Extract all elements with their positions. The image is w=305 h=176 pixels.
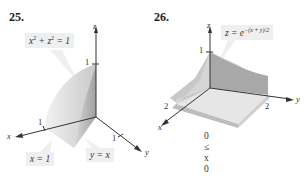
z-tick-label: 1 bbox=[199, 45, 203, 55]
x-tick-label: 2 bbox=[164, 101, 168, 111]
surface-equation-label: z = e−(x + y)/2 bbox=[221, 25, 273, 40]
back-face bbox=[210, 52, 268, 95]
constraint-x: 0 ≤ x bbox=[204, 131, 209, 164]
x-axis-label: x bbox=[158, 122, 162, 132]
domain-constraints: 0 ≤ x 0 ≤ y bbox=[204, 131, 209, 176]
constraint-y: 0 ≤ y bbox=[204, 164, 209, 176]
y-axis-arrow-icon bbox=[286, 97, 294, 102]
z-axis-label: z bbox=[207, 20, 210, 30]
y-axis-label: y bbox=[296, 94, 300, 104]
y-tick-label: 2 bbox=[265, 101, 269, 111]
